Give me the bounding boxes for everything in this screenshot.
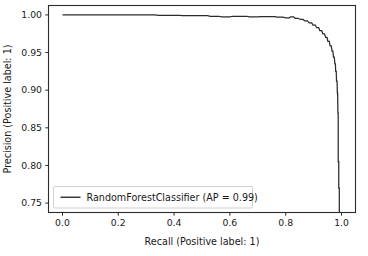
x-axis-title: Recall (Positive label: 1) — [145, 236, 260, 247]
x-tick-label: 0.4 — [167, 217, 182, 228]
x-tick-label: 0.8 — [278, 217, 293, 228]
pr-curve-figure: 0.00.20.40.60.81.00.750.800.850.900.951.… — [0, 0, 368, 256]
y-tick-label: 0.80 — [21, 160, 42, 171]
y-tick-label: 0.75 — [21, 197, 42, 208]
y-tick-label: 0.90 — [21, 84, 42, 95]
y-tick-label: 0.85 — [21, 122, 42, 133]
legend-entry-label: RandomForestClassifier (AP = 0.99) — [87, 192, 258, 203]
x-tick-label: 0.2 — [111, 217, 126, 228]
chart-canvas: 0.00.20.40.60.81.00.750.800.850.900.951.… — [0, 0, 368, 256]
x-tick-label: 0.6 — [223, 217, 238, 228]
x-tick-label: 1.0 — [334, 217, 349, 228]
y-tick-label: 1.00 — [21, 9, 42, 20]
x-tick-label: 0.0 — [55, 217, 70, 228]
y-tick-label: 0.95 — [21, 47, 42, 58]
pr-curve-line — [62, 15, 339, 212]
y-axis-title: Precision (Positive label: 1) — [2, 45, 13, 174]
plot-frame — [49, 6, 356, 213]
